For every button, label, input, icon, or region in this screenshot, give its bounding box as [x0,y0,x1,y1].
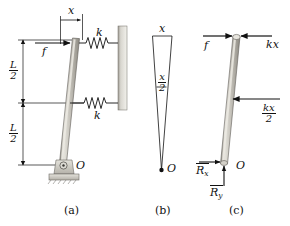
pin-support-a [48,160,79,184]
caption-a: (a) [64,205,79,216]
label-ry-c: Ry [210,187,223,199]
label-x-a: x [68,5,74,16]
label-x-half-b: x 2 [158,72,166,93]
label-f-c: f [204,40,208,51]
label-O-c: O [236,160,245,171]
rod-a [60,38,80,163]
label-O-b: O [167,163,176,174]
kinematics-triangle-b [153,36,173,172]
panel-b [153,36,173,172]
spring-bottom-a [70,98,118,109]
mechanics-figure [0,0,290,226]
rod-c [220,34,240,165]
label-length-upper-a: L 2 [9,60,18,81]
panel-a [18,14,127,184]
label-k-top-a: k [96,27,103,38]
caption-c: (c) [229,205,244,216]
label-x-b: x [159,23,165,34]
label-kx-half-c: kx 2 [262,103,276,124]
label-kx-c: kx [266,39,279,50]
label-f-a: f [42,46,46,57]
label-O-a: O [76,160,85,171]
wall-a [118,26,127,110]
spring-top-a [79,38,118,49]
caption-b: (b) [155,205,171,216]
label-length-lower-a: L 2 [9,123,18,144]
label-k-bottom-a: k [94,110,101,121]
label-rx-c: Rx [196,165,209,177]
